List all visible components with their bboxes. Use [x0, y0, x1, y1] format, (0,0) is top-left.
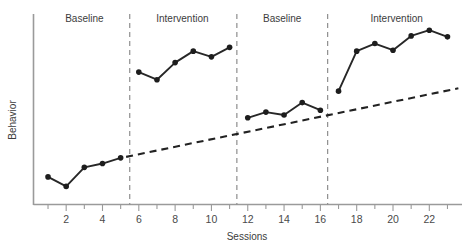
- x-tick-label: 4: [100, 213, 106, 225]
- data-point: [209, 54, 215, 60]
- x-tick-label: 8: [172, 213, 178, 225]
- phase-label-baseline: Baseline: [263, 13, 302, 24]
- data-point: [154, 77, 160, 83]
- phase-label-intervention: Intervention: [156, 13, 208, 24]
- data-point: [372, 41, 378, 47]
- data-point: [100, 161, 106, 167]
- data-point: [263, 109, 269, 115]
- data-point: [354, 48, 360, 54]
- single-case-design-line-chart: 246810121416182022 BaselineInterventionB…: [0, 0, 466, 248]
- chart-background: [0, 0, 466, 248]
- data-point: [172, 60, 178, 66]
- x-tick-label: 12: [242, 213, 254, 225]
- data-point: [318, 107, 324, 113]
- data-point: [245, 115, 251, 121]
- data-point: [118, 155, 124, 161]
- x-tick-label: 6: [136, 213, 142, 225]
- data-point: [227, 45, 233, 51]
- y-axis-title: Behavior: [7, 100, 18, 140]
- x-tick-label: 16: [315, 213, 327, 225]
- x-tick-label: 14: [278, 213, 290, 225]
- data-point: [390, 47, 396, 53]
- x-tick-label: 10: [206, 213, 218, 225]
- data-point: [281, 112, 287, 118]
- x-tick-label: 2: [63, 213, 69, 225]
- data-point: [299, 100, 305, 106]
- phase-label-intervention: Intervention: [371, 13, 423, 24]
- x-tick-label: 22: [423, 213, 435, 225]
- data-point: [445, 34, 451, 40]
- data-point: [45, 174, 51, 180]
- data-point: [336, 88, 342, 94]
- x-axis-title: Sessions: [227, 231, 268, 242]
- data-point: [136, 69, 142, 75]
- x-tick-label: 18: [351, 213, 363, 225]
- chart-figure: 246810121416182022 BaselineInterventionB…: [0, 0, 466, 248]
- data-point: [190, 48, 196, 54]
- phase-label-baseline: Baseline: [65, 13, 104, 24]
- data-point: [427, 27, 433, 33]
- data-point: [82, 165, 88, 171]
- x-tick-label: 20: [387, 213, 399, 225]
- data-point: [408, 33, 414, 39]
- data-point: [63, 184, 69, 190]
